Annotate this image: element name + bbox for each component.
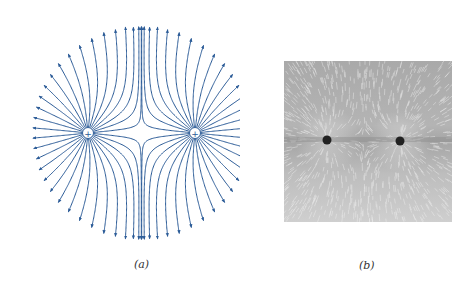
field-line — [196, 54, 215, 127]
seed-pattern — [284, 61, 452, 222]
field-line — [93, 136, 134, 239]
charge-dot-right — [396, 137, 405, 146]
field-line — [90, 39, 98, 128]
field-line — [200, 107, 240, 130]
svg-text:+: + — [191, 129, 199, 139]
field-line — [166, 30, 192, 129]
field-line — [198, 138, 233, 191]
grass-seed-photo — [284, 61, 452, 222]
svg-text:+: + — [84, 129, 92, 139]
field-line — [92, 138, 118, 237]
field-line — [80, 139, 90, 221]
field-line — [198, 75, 233, 128]
caption-b: (b) — [359, 259, 375, 272]
field-line — [200, 136, 240, 159]
field-line — [196, 139, 215, 212]
field-line — [51, 138, 86, 191]
field-line — [185, 139, 193, 228]
field-line — [193, 45, 203, 127]
field-line — [68, 54, 87, 127]
field-line — [166, 138, 192, 237]
field-line — [92, 30, 118, 129]
field-line — [68, 139, 87, 212]
positive-charge-left: + — [83, 128, 94, 139]
field-line-diagram: + + — [0, 0, 240, 288]
field-line — [193, 139, 203, 221]
field-line — [149, 27, 190, 130]
caption-a: (a) — [134, 258, 149, 271]
field-line — [149, 136, 190, 239]
field-line — [201, 134, 240, 139]
field-line — [185, 39, 193, 128]
field-line — [201, 128, 240, 132]
field-line — [51, 75, 86, 128]
field-line — [93, 27, 134, 130]
positive-charge-right: + — [190, 128, 201, 139]
field-line — [34, 135, 83, 149]
field-line — [34, 117, 83, 131]
field-line — [90, 139, 98, 228]
field-line — [80, 45, 90, 127]
charge-dot-left — [323, 136, 332, 145]
